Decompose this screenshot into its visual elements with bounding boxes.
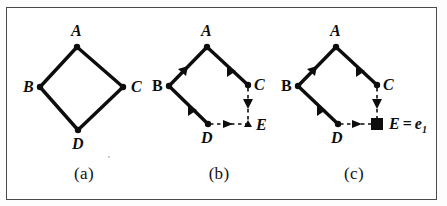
- node-label-d: D: [331, 130, 343, 146]
- node-label-b: B: [152, 78, 163, 94]
- edge-a-b: [298, 47, 336, 86]
- node-a: [204, 44, 210, 50]
- node-label-d: D: [72, 136, 84, 152]
- node-label-a: A: [330, 23, 341, 39]
- edge-b-d: [40, 87, 78, 130]
- node-label-b: B: [281, 78, 292, 94]
- node-label-a: A: [201, 23, 212, 39]
- edge-d-e: [340, 120, 371, 128]
- arrowhead-c-e: [243, 99, 253, 109]
- node-c: [374, 82, 380, 88]
- edge-b-d: [169, 86, 208, 124]
- edge-a-b: [169, 47, 207, 86]
- edge-c-e: [243, 88, 253, 121]
- node-label-d: D: [201, 130, 213, 146]
- edge-a-c: [77, 47, 123, 87]
- node-label-c: C: [131, 79, 142, 95]
- arrowhead-c-e: [372, 99, 382, 109]
- node-label-b: B: [23, 79, 34, 95]
- node-c: [245, 82, 251, 88]
- evidence-subscript: 1: [422, 124, 427, 135]
- edge-d-e: [210, 120, 246, 128]
- edge-b-d: [298, 86, 338, 124]
- caption-b: (b): [189, 164, 249, 184]
- figure-frame: A B C D (a): [6, 7, 437, 200]
- caption-a: (a): [54, 164, 114, 184]
- evidence-equals: =: [403, 115, 412, 132]
- panel-c: A B C D E=e1 (c): [279, 8, 438, 201]
- panel-b: A B C D E (b): [147, 8, 297, 201]
- edge-a-c: [207, 47, 248, 85]
- edge-a-b: [40, 47, 77, 87]
- print-speck: [108, 156, 110, 158]
- node-d: [75, 127, 81, 133]
- evidence-label: E=e1: [389, 116, 427, 135]
- node-c: [120, 84, 126, 90]
- node-label-c: C: [254, 77, 265, 93]
- edge-c-d: [78, 87, 123, 130]
- node-b: [295, 83, 301, 89]
- edge-a-c: [336, 47, 377, 85]
- node-label-c: C: [383, 77, 394, 93]
- node-a: [333, 44, 339, 50]
- node-b: [166, 83, 172, 89]
- caption-c: (c): [324, 164, 384, 184]
- node-label-a: A: [71, 23, 82, 39]
- node-d: [335, 121, 341, 127]
- edge-c-e: [372, 88, 382, 118]
- arrowhead-d-e: [223, 120, 233, 128]
- node-label-e: E: [256, 117, 267, 133]
- evidence-variable: E: [389, 115, 400, 132]
- node-b: [37, 84, 43, 90]
- panel-a: A B C D (a): [7, 8, 147, 201]
- arrowhead-d-e: [352, 120, 362, 128]
- evidence-value: e: [415, 115, 422, 132]
- node-e-observed-square: [371, 118, 383, 130]
- node-d: [205, 121, 211, 127]
- node-a: [74, 44, 80, 50]
